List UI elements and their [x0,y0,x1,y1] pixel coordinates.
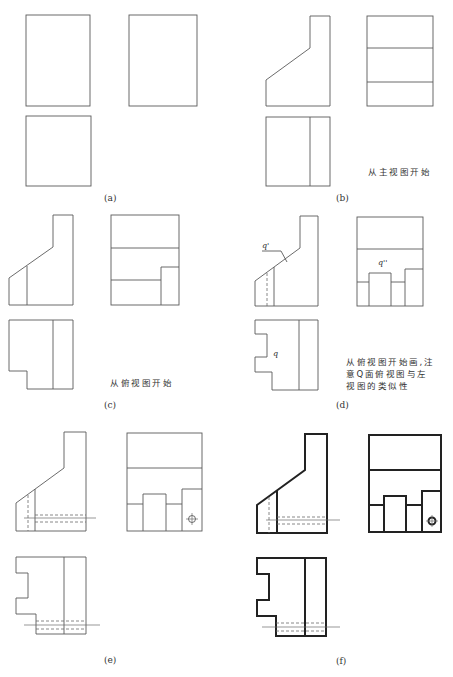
panel-d-top-view: q [255,320,318,390]
panel-c-label: (c) [104,400,116,410]
panel-a-side-view [129,15,197,106]
panel-a-top-view [26,116,91,186]
panel-e: (e) [16,432,202,665]
panel-d-front-view: q' [255,216,318,306]
panel-f-front-view [257,434,340,533]
panel-f: (f) [257,434,441,666]
panel-b-front-view [266,16,330,106]
panel-c-front-view [9,215,73,305]
svg-text:从俯视图开始画,注: 从俯视图开始画,注 [346,357,434,367]
panel-f-label: (f) [336,656,346,666]
svg-text:视图的类似性: 视图的类似性 [346,381,409,391]
panel-c: 从俯视图开始 (c) [9,215,179,410]
three-view-drawing-figure: (a) 从主视图开始 (b) 从俯视图开始 [0,0,453,677]
panel-a-front-view [26,15,90,106]
panel-c-top-view [9,320,73,389]
panel-e-label: (e) [104,655,116,665]
panel-b-label: (b) [336,193,349,203]
q-symbol: q [273,349,278,358]
panel-b-note: 从主视图开始 [368,167,431,177]
panel-d-side-view: q'' [357,217,423,306]
panel-b-side-view [367,16,433,106]
q-prime-symbol: q' [262,241,269,250]
svg-text:意Q面俯视图与左: 意Q面俯视图与左 [346,369,428,379]
q-double-prime-symbol: q'' [378,258,388,267]
panel-e-top-view [16,557,100,634]
panel-f-side-view [369,435,441,532]
panel-f-top-view [257,558,340,636]
panel-e-front-view [16,432,96,531]
panel-e-side-view [127,433,202,531]
panel-a-label: (a) [104,193,116,203]
panel-b-top-view [266,117,330,186]
panel-a: (a) [26,15,197,203]
hole-circle-icon [426,515,438,527]
panel-b: 从主视图开始 (b) [266,16,433,203]
panel-c-side-view [111,215,179,305]
panel-d-note: 从俯视图开始画,注 意Q面俯视图与左 视图的类似性 [346,357,434,391]
panel-c-note: 从俯视图开始 [110,378,173,388]
hole-circle-icon [186,513,198,525]
panel-d: q' q'' q 从俯视图开始画,注 意Q面俯视图与左 视图的类似性 (d) [255,216,434,410]
panel-d-label: (d) [336,400,349,410]
